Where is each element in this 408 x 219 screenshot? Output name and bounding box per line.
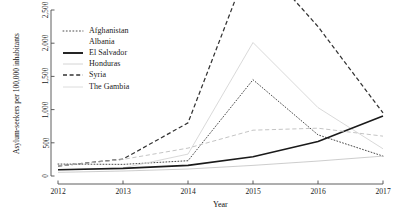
legend-label: Albania	[89, 37, 115, 47]
legend-item: Syria	[62, 70, 129, 81]
legend-swatch-albania	[62, 37, 84, 47]
legend-item: The Gambia	[62, 81, 129, 92]
legend-label: El Salvador	[89, 48, 127, 58]
series-line-el-salvador	[58, 116, 383, 170]
legend-swatch-afghanistan	[62, 26, 84, 36]
legend-item: Honduras	[62, 59, 129, 70]
legend-item: Albania	[62, 36, 129, 47]
legend-item: Afghanistan	[62, 25, 129, 36]
legend: Afghanistan Albania El Salvador Honduras…	[62, 25, 129, 92]
series-line-afghanistan	[58, 80, 383, 165]
legend-label: Syria	[89, 70, 106, 80]
legend-swatch-syria	[62, 70, 84, 80]
legend-swatch-honduras	[62, 59, 84, 69]
line-chart: Asylum-seekers per 100,000 inhabitants 0…	[0, 0, 408, 219]
legend-swatch-the-gambia	[62, 82, 84, 92]
legend-item: El Salvador	[62, 47, 129, 58]
legend-label: Afghanistan	[89, 26, 129, 36]
legend-label: The Gambia	[89, 82, 129, 92]
legend-swatch-el-salvador	[62, 48, 84, 58]
legend-label: Honduras	[89, 59, 121, 69]
